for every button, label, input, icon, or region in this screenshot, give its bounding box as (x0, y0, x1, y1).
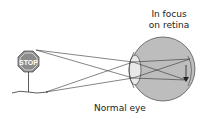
diagram-caption: Normal eye (88, 103, 152, 114)
annotation-line-1: In focus (140, 9, 198, 20)
svg-text:STOP: STOP (19, 59, 38, 66)
annotation-line-2: on retina (140, 20, 198, 31)
stop-sign-icon: STOP (12, 51, 48, 93)
focus-annotation: In focus on retina (140, 9, 198, 31)
